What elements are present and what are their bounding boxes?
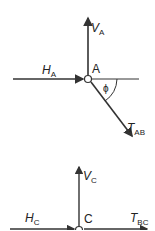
tbc-label: TBC	[130, 211, 149, 227]
joint-a-label: A	[92, 62, 100, 76]
hc-label: HC	[25, 211, 40, 227]
va-label: VA	[91, 21, 105, 37]
vc-label: VC	[83, 169, 97, 185]
free-body-diagram: VA HA ϕ TAB A VC HC TBC C	[0, 0, 155, 230]
ha-label: HA	[42, 63, 57, 79]
phi-label: ϕ	[103, 83, 109, 94]
joint-c-node	[76, 227, 83, 231]
joint-c-label: C	[84, 212, 93, 226]
tab-arrow	[91, 82, 132, 136]
tab-label: TAB	[127, 121, 145, 137]
joint-a-group: VA HA ϕ TAB A	[13, 18, 145, 137]
joint-c-group: VC HC TBC C	[10, 167, 149, 230]
joint-a-node	[85, 76, 92, 83]
